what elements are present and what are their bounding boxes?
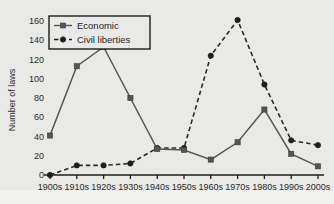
data-point-civil-liberties-1980s xyxy=(262,82,267,87)
data-point-civil-liberties-1970s xyxy=(235,17,240,22)
y-tick-label-160: 160 xyxy=(29,16,44,26)
y-tick-label-140: 140 xyxy=(29,35,44,45)
data-point-economic-2000s xyxy=(315,164,320,169)
bottom-margin-strip xyxy=(0,190,334,204)
y-tick-label-120: 120 xyxy=(29,55,44,65)
data-point-economic-1960s xyxy=(208,157,213,162)
legend-label-civil-liberties: Civil liberties xyxy=(77,34,131,45)
data-point-economic-1950s xyxy=(181,147,186,152)
legend-swatch-economic-marker xyxy=(61,23,66,28)
data-point-economic-1940s xyxy=(155,146,160,151)
line-chart: 160140120100806040200 Number of laws 190… xyxy=(0,0,334,204)
y-tick-label-100: 100 xyxy=(29,74,44,84)
legend: Economic Civil liberties xyxy=(49,16,150,49)
data-point-economic-1990s xyxy=(289,151,294,156)
y-tick-label-0: 0 xyxy=(39,170,44,180)
data-point-civil-liberties-1920s xyxy=(101,163,106,168)
data-point-civil-liberties-1930s xyxy=(128,161,133,166)
data-point-civil-liberties-1910s xyxy=(74,163,79,168)
data-point-civil-liberties-1990s xyxy=(289,138,294,143)
y-tick-label-60: 60 xyxy=(34,112,44,122)
y-tick-label-40: 40 xyxy=(34,132,44,142)
data-point-civil-liberties-1900s xyxy=(47,172,52,177)
chart-container: 160140120100806040200 Number of laws 190… xyxy=(0,0,334,204)
legend-swatch-civil-liberties-marker xyxy=(60,37,65,42)
data-point-economic-1900s xyxy=(47,133,52,138)
data-point-economic-1930s xyxy=(128,95,133,100)
data-point-economic-1910s xyxy=(74,64,79,69)
y-tick-label-80: 80 xyxy=(34,93,44,103)
data-point-economic-1980s xyxy=(262,107,267,112)
data-point-civil-liberties-2000s xyxy=(315,142,320,147)
legend-label-economic: Economic xyxy=(77,20,119,31)
y-axis-title: Number of laws xyxy=(7,68,17,131)
data-point-economic-1970s xyxy=(235,140,240,145)
data-point-civil-liberties-1960s xyxy=(208,53,213,58)
y-tick-label-20: 20 xyxy=(34,151,44,161)
